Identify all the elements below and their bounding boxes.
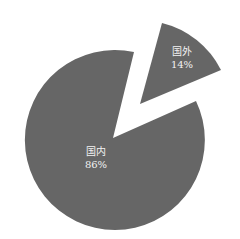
label-domestic-name: 国内: [78, 145, 114, 158]
label-domestic: 国内 86%: [78, 145, 114, 171]
label-foreign-pct: 14%: [164, 58, 200, 71]
label-foreign: 国外 14%: [164, 45, 200, 71]
label-domestic-pct: 86%: [78, 158, 114, 171]
label-foreign-name: 国外: [164, 45, 200, 58]
pie-chart: [0, 0, 240, 239]
